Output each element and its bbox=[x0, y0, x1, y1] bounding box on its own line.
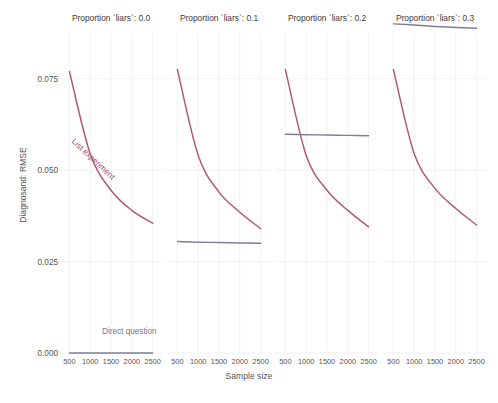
series-line-direct-question bbox=[393, 24, 476, 28]
x-tick-label: 2500 bbox=[468, 357, 484, 366]
x-tick-label: 1500 bbox=[427, 357, 443, 366]
x-tick-label: 500 bbox=[279, 357, 291, 366]
x-tick-label: 2500 bbox=[252, 357, 268, 366]
annotation-direct-question: Direct question bbox=[102, 327, 157, 336]
x-tick-label: 1500 bbox=[211, 357, 227, 366]
x-tick-label: 2500 bbox=[360, 357, 376, 366]
x-tick-label: 1500 bbox=[103, 357, 119, 366]
x-tick-label: 2000 bbox=[124, 357, 140, 366]
x-tick-label: 1000 bbox=[190, 357, 206, 366]
x-tick-label: 500 bbox=[387, 357, 399, 366]
x-tick-label: 2500 bbox=[144, 357, 160, 366]
x-tick-label: 1500 bbox=[319, 357, 335, 366]
x-tick-label: 2000 bbox=[232, 357, 248, 366]
plot-area bbox=[0, 0, 498, 403]
x-tick-label: 500 bbox=[63, 357, 75, 366]
figure-container: Diagnosand: RMSE 0.0000.0250.0500.075 Pr… bbox=[0, 0, 498, 403]
x-tick-label: 500 bbox=[171, 357, 183, 366]
x-tick-label: 1000 bbox=[298, 357, 314, 366]
x-tick-label: 2000 bbox=[340, 357, 356, 366]
x-tick-label: 2000 bbox=[448, 357, 464, 366]
x-tick-label: 1000 bbox=[406, 357, 422, 366]
x-tick-label: 1000 bbox=[82, 357, 98, 366]
x-axis-title: Sample size bbox=[0, 371, 498, 381]
